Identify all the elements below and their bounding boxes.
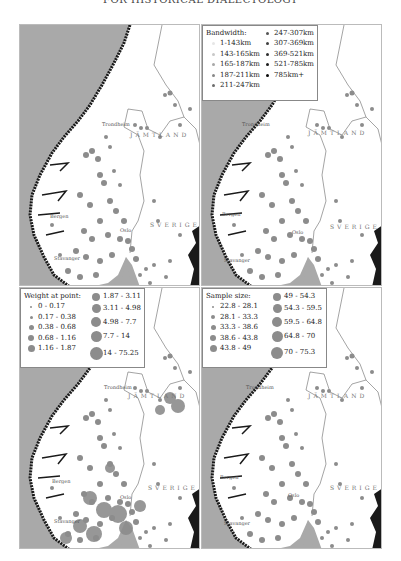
legend-item: 1.87 - 3.11 (103, 293, 141, 300)
legend-title: Sample size: (206, 291, 270, 302)
legend-item: 0 - 0.17 (38, 303, 65, 310)
city-label-trondheim: Trondheim (246, 384, 274, 390)
legend-item: 165-187km (220, 61, 260, 68)
legend-item: 43.8 - 49 (220, 345, 251, 352)
norway-map (20, 25, 200, 286)
city-label-stavanger: Stavanger (224, 520, 250, 526)
city-label-oslo: Oslo (288, 492, 299, 498)
legend-item: 187-211km (220, 72, 260, 79)
legend-item: 70 - 75.3 (284, 349, 315, 356)
region-label-jamtland: JÄMTLAND (308, 129, 367, 136)
legend-item: 0.38 - 0.68 (38, 324, 76, 331)
legend-item: 64.8 - 70 (284, 333, 315, 340)
country-label-sverige: SVERIGE (148, 484, 198, 491)
legend-item: 307-369km (274, 40, 314, 47)
legend-item: 22.8 - 28.1 (220, 303, 258, 310)
country-label-sverige: SVERIGE (150, 221, 200, 228)
city-label-bergen: Bergen (220, 474, 238, 480)
legend-item: 7.7 - 14 (103, 333, 130, 340)
city-label-stavanger: Stavanger (224, 257, 250, 263)
country-label-sverige: SVERIGE (330, 484, 380, 491)
legend-item: 33.3 - 38.6 (220, 324, 258, 331)
legend-item: 1-143km (220, 40, 251, 47)
legend-weight-at-point: Weight at point: 0 - 0.17 0.17 - 0.38 0.… (20, 288, 145, 368)
legend-item: 3.11 - 4.98 (103, 305, 141, 312)
legend-title: Bandwidth: (206, 28, 260, 39)
legend-item: 14 - 75.25 (103, 350, 139, 357)
city-label-trondheim: Trondheim (104, 384, 132, 390)
legend-item: 0.68 - 1.16 (38, 335, 76, 342)
map-panel-top-right: Trondheim JÄMTLAND SVERIGE Bergen Stavan… (201, 24, 382, 286)
legend-title: Weight at point: (24, 291, 89, 302)
country-label-sverige: SVERIGE (330, 223, 380, 230)
legend-item: 59.5 - 64.8 (284, 319, 322, 326)
legend-item: 143-165km (220, 51, 260, 58)
map-panel-bottom-left: Trondheim JÄMTLAND SVERIGE Bergen Stavan… (19, 287, 200, 549)
legend-item: 54.3 - 59.5 (284, 305, 322, 312)
legend-item: 0.17 - 0.38 (38, 314, 76, 321)
region-label-jamtland: JÄMTLAND (128, 392, 187, 399)
city-label-oslo: Oslo (292, 229, 303, 235)
city-label-bergen: Bergen (52, 478, 70, 484)
city-label-trondheim: Trondheim (102, 121, 130, 127)
legend-item: 785km+ (274, 72, 304, 79)
city-label-bergen: Bergen (222, 211, 240, 217)
map-panel-bottom-right: Trondheim JÄMTLAND SVERIGE Bergen Stavan… (201, 287, 382, 549)
region-label-jamtland: JÄMTLAND (130, 131, 189, 138)
legend-item: 247-307km (274, 30, 314, 37)
city-label-stavanger: Stavanger (54, 518, 80, 524)
legend-item: 38.6 - 43.8 (220, 335, 258, 342)
legend-item: 369-521km (274, 51, 314, 58)
legend-item: 211-247km (220, 82, 260, 89)
city-label-bergen: Bergen (50, 213, 68, 219)
legend-item: 1.16 - 1.87 (38, 345, 76, 352)
legend-bandwidth: Bandwidth: 1-143km 143-165km 165-187km 1… (202, 25, 318, 101)
legend-item: 4.98 - 7.7 (103, 319, 137, 326)
legend-item: 49 - 54.3 (284, 293, 315, 300)
map-panel-top-left: Trondheim JÄMTLAND SVERIGE Bergen Stavan… (19, 24, 200, 286)
legend-item: 28.1 - 33.3 (220, 314, 258, 321)
legend-sample-size: Sample size: 22.8 - 28.1 28.1 - 33.3 33.… (202, 288, 327, 368)
city-label-stavanger: Stavanger (54, 255, 80, 261)
legend-item: 521-785km (274, 61, 314, 68)
region-label-jamtland: JÄMTLAND (308, 392, 367, 399)
page-header: FOR HISTORICAL DIALECTOLOGY (0, 0, 401, 5)
city-label-trondheim: Trondheim (242, 121, 270, 127)
city-label-oslo: Oslo (120, 494, 131, 500)
city-label-oslo: Oslo (120, 227, 131, 233)
